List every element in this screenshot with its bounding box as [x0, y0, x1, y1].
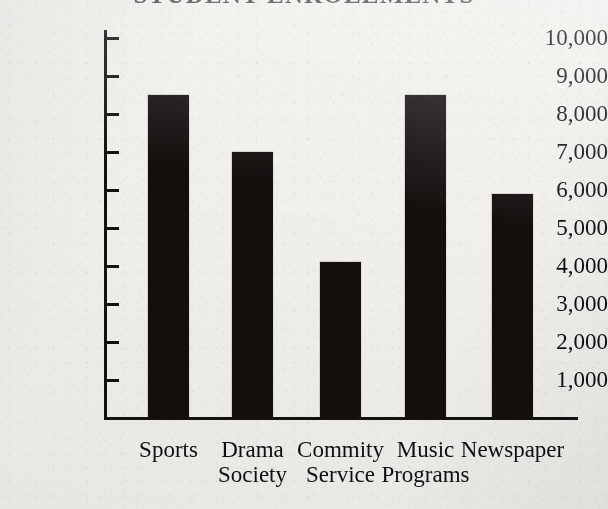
y-axis-tick-label: 10,000 — [512, 26, 608, 49]
bar — [148, 95, 189, 418]
bar — [492, 194, 533, 418]
y-axis-tick — [104, 265, 119, 268]
x-axis-category-label-line2: Programs — [356, 462, 496, 487]
y-axis-tick — [104, 151, 119, 154]
y-axis-tick-label: 8,000 — [512, 102, 608, 125]
y-axis-tick — [104, 37, 119, 40]
bar-chart-plot-area: 10,0009,0008,0007,0006,0005,0004,0003,00… — [0, 0, 608, 509]
bar — [320, 262, 361, 418]
y-axis-tick-label: 7,000 — [512, 140, 608, 163]
bar — [405, 95, 446, 418]
y-axis-tick — [104, 113, 119, 116]
y-axis-tick — [104, 227, 119, 230]
y-axis-tick — [104, 379, 119, 382]
y-axis-tick — [104, 341, 119, 344]
y-axis-tick-label: 9,000 — [512, 64, 608, 87]
y-axis-tick — [104, 75, 119, 78]
y-axis-tick — [104, 189, 119, 192]
y-axis-tick — [104, 303, 119, 306]
x-axis-category-label-line1: Newspaper — [461, 437, 564, 462]
bar — [232, 152, 273, 418]
x-axis-category-label: Newspaper — [443, 437, 583, 462]
chart-title: STUDENT ENROLLMENTS — [0, 0, 608, 11]
chart-title-text: STUDENT ENROLLMENTS — [0, 0, 608, 9]
